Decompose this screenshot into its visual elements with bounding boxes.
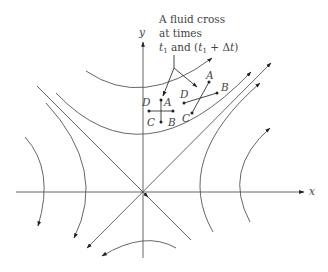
point-initial-C [160, 121, 163, 124]
axes: x y [16, 26, 315, 258]
stagnation-flow-diagram: x y A fluid cross at times t1 and (t1 + … [0, 0, 328, 272]
y-axis-label: y [138, 26, 146, 38]
point-later-D [183, 102, 186, 105]
right-streamlines [200, 83, 270, 232]
streamline-right-outer [240, 128, 270, 222]
annotation-line-1: A fluid cross [158, 13, 225, 25]
streamline-left-outer [25, 137, 44, 226]
streamline-left-inner [46, 103, 86, 238]
annotation-line-2: at times [159, 27, 202, 39]
cross-later-DB [184, 93, 217, 103]
fluid-cross-initial: D A C B [141, 96, 176, 128]
label-later-C: C [182, 112, 190, 124]
left-streamlines [25, 103, 86, 238]
point-initial-A [160, 99, 163, 102]
fluid-cross-later: A B D C [179, 69, 229, 124]
point-initial-D [148, 110, 151, 113]
label-later-A: A [205, 69, 214, 81]
label-initial-A: A [163, 96, 172, 108]
label-later-D: D [179, 88, 189, 100]
cross-later-CA [192, 82, 209, 113]
asymptote-line-diagonal-up [87, 63, 271, 248]
label-initial-D: D [141, 96, 151, 108]
annotation-line-3: t1 and (t1 + Δt) [159, 41, 238, 55]
label-initial-C: C [147, 116, 155, 128]
x-axis-label: x [309, 185, 315, 197]
asymptote-line-diagonal-down [37, 86, 191, 240]
streamline-lower [102, 241, 176, 256]
streamline-right-inner [200, 83, 260, 232]
asymptotes [37, 63, 271, 248]
point-later-C [191, 112, 194, 115]
pointer-to-initial-cross [163, 68, 174, 96]
point-initial-B [172, 110, 175, 113]
label-later-B: B [220, 81, 229, 93]
label-initial-B: B [167, 116, 176, 128]
point-later-B [216, 92, 219, 95]
